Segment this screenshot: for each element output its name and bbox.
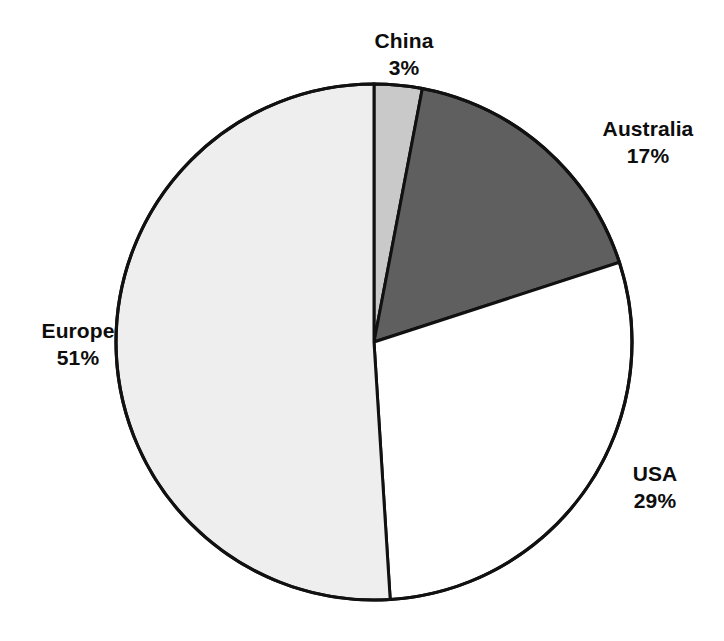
pie-label-usa: USA 29% — [633, 460, 678, 514]
pie-label-australia-value: 17% — [603, 142, 694, 169]
pie-slice-group — [116, 84, 632, 600]
pie-label-australia: Australia 17% — [603, 115, 694, 169]
pie-label-usa-name: USA — [633, 460, 678, 487]
pie-label-europe-value: 51% — [42, 344, 115, 371]
pie-slice-europe — [116, 84, 390, 600]
pie-label-china-name: China — [375, 27, 434, 54]
pie-label-china-value: 3% — [375, 54, 434, 81]
pie-label-usa-value: 29% — [633, 487, 678, 514]
pie-label-australia-name: Australia — [603, 115, 694, 142]
pie-chart: Europe 51% China 3% Australia 17% USA 29… — [0, 0, 724, 641]
pie-label-china: China 3% — [375, 27, 434, 81]
pie-label-europe-name: Europe — [42, 317, 115, 344]
pie-label-europe: Europe 51% — [42, 317, 115, 371]
